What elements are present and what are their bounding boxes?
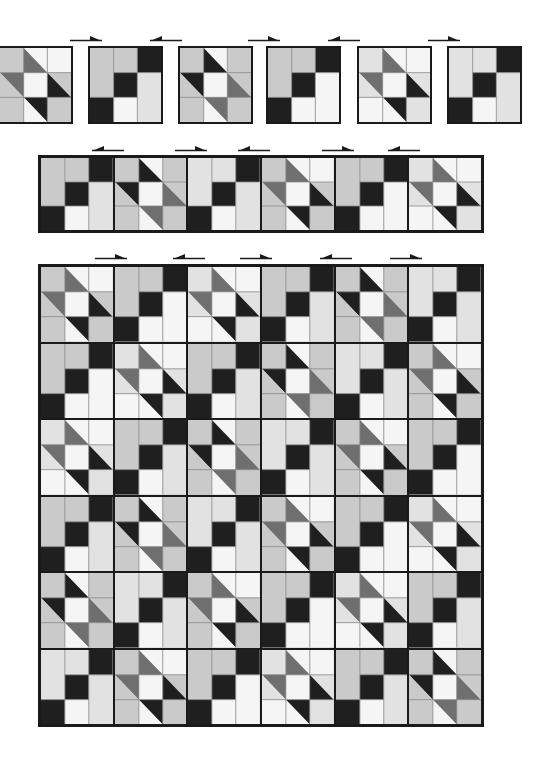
quilt-block-r3-c3 (187, 419, 261, 496)
quilt-block-r3-c5 (335, 419, 409, 496)
pressed-row-strip (38, 155, 484, 233)
chain-block-4 (266, 46, 341, 124)
assembled-quilt-top (38, 264, 484, 727)
quilt-block-r1-c1 (40, 266, 114, 343)
diagonal-block-5 (357, 46, 432, 124)
quilt-block-r3-c4 (261, 419, 335, 496)
quilt-block-r5-c5 (335, 572, 409, 649)
strip-block-2 (114, 157, 188, 231)
arrow-right-icon (175, 144, 207, 152)
quilt-block-r5-c3 (187, 572, 261, 649)
quilt-block-r1-c5 (335, 266, 409, 343)
quilt-block-r6-c6 (408, 649, 482, 726)
quilt-block-r4-c2 (114, 496, 188, 573)
quilt-block-r4-c4 (261, 496, 335, 573)
quilt-block-r2-c3 (187, 343, 261, 420)
strip-block-1 (40, 157, 114, 231)
quilt-block-r5-c2 (114, 572, 188, 649)
arrow-right-icon (428, 34, 460, 42)
arrow-right-icon (248, 34, 280, 42)
arrow-left-icon (388, 144, 420, 152)
arrow-right-icon (240, 252, 272, 260)
strip-block-6 (408, 157, 482, 231)
quilt-block-r5-c4 (261, 572, 335, 649)
quilt-block-r4-c1 (40, 496, 114, 573)
quilt-block-r5-c6 (408, 572, 482, 649)
strip-block-4 (261, 157, 335, 231)
arrow-left-icon (238, 144, 270, 152)
diagonal-block-1 (0, 46, 73, 124)
arrow-left-icon (173, 252, 205, 260)
diagonal-block-3 (178, 46, 253, 124)
quilt-block-r6-c2 (114, 649, 188, 726)
quilt-block-r2-c1 (40, 343, 114, 420)
quilt-block-r6-c5 (335, 649, 409, 726)
quilt-block-r2-c5 (335, 343, 409, 420)
strip-block-3 (187, 157, 261, 231)
quilt-block-r2-c2 (114, 343, 188, 420)
chain-block-6 (447, 46, 522, 124)
quilt-block-r3-c1 (40, 419, 114, 496)
arrow-right-icon (95, 252, 127, 260)
arrow-right-icon (70, 34, 102, 42)
quilt-block-r1-c2 (114, 266, 188, 343)
quilt-block-r6-c4 (261, 649, 335, 726)
arrow-right-icon (390, 252, 422, 260)
arrow-left-icon (328, 34, 360, 42)
arrow-left-icon (92, 144, 124, 152)
quilt-block-r4-c6 (408, 496, 482, 573)
arrow-left-icon (320, 252, 352, 260)
quilt-block-r4-c3 (187, 496, 261, 573)
quilt-block-r4-c5 (335, 496, 409, 573)
quilt-block-r2-c6 (408, 343, 482, 420)
quilt-block-r2-c4 (261, 343, 335, 420)
quilt-block-r3-c6 (408, 419, 482, 496)
strip-block-5 (335, 157, 409, 231)
quilt-block-r6-c1 (40, 649, 114, 726)
quilt-block-r1-c6 (408, 266, 482, 343)
chain-block-2 (88, 46, 163, 124)
quilt-block-r1-c4 (261, 266, 335, 343)
quilt-block-r6-c3 (187, 649, 261, 726)
quilt-block-r3-c2 (114, 419, 188, 496)
quilt-block-r5-c1 (40, 572, 114, 649)
arrow-left-icon (150, 34, 182, 42)
quilt-block-r1-c3 (187, 266, 261, 343)
arrow-right-icon (322, 144, 354, 152)
